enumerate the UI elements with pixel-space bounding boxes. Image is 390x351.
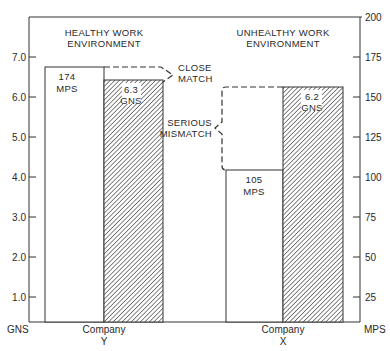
category-label-company-y-line2: Y bbox=[101, 336, 108, 347]
right-tick-label: 100 bbox=[365, 172, 382, 183]
right-tick-label: 125 bbox=[365, 132, 382, 143]
panel-title-unhealthy-line2: ENVIRONMENT bbox=[246, 38, 320, 49]
left-tick-label: 2.0 bbox=[12, 252, 26, 263]
annotation-text: CLOSE bbox=[178, 62, 212, 73]
right-tick-label: 175 bbox=[365, 52, 382, 63]
left-tick-label: 1.0 bbox=[12, 292, 26, 303]
bar-label-value: 6.3 bbox=[124, 84, 138, 95]
company-x-group: 105 MPS 6.2 GNS bbox=[226, 87, 343, 322]
right-tick-label: 75 bbox=[365, 212, 377, 223]
bar-label-unit: MPS bbox=[56, 83, 78, 94]
category-label-company-y: Company bbox=[83, 324, 126, 335]
mps-gns-chart: 1.0 2.0 3.0 4.0 5.0 6.0 7.0 GNS 25 50 75… bbox=[0, 0, 390, 351]
category-label-company-x: Company bbox=[262, 324, 305, 335]
category-label-company-x-line2: X bbox=[280, 336, 287, 347]
left-axis-label: GNS bbox=[7, 324, 29, 335]
panel-title-unhealthy: UNHEALTHY WORK bbox=[236, 27, 329, 38]
right-tick-label: 25 bbox=[365, 292, 377, 303]
left-tick-label: 7.0 bbox=[12, 52, 26, 63]
left-axis-gns: 1.0 2.0 3.0 4.0 5.0 6.0 7.0 GNS bbox=[7, 52, 36, 335]
right-tick-label: 150 bbox=[365, 92, 382, 103]
bar-company-x-gns bbox=[283, 87, 343, 322]
annotation-text: SERIOUS bbox=[167, 117, 212, 128]
bar-label-unit: GNS bbox=[120, 95, 142, 106]
right-tick-label: 200 bbox=[365, 12, 382, 23]
company-y-group: 174 MPS 6.3 GNS bbox=[45, 67, 163, 322]
left-tick-label: 3.0 bbox=[12, 212, 26, 223]
left-tick-label: 6.0 bbox=[12, 92, 26, 103]
panel-title-healthy: HEALTHY WORK bbox=[65, 27, 144, 38]
bar-label-unit: MPS bbox=[243, 186, 265, 197]
panel-title-healthy-line2: ENVIRONMENT bbox=[67, 38, 141, 49]
right-axis-label: MPS bbox=[364, 324, 386, 335]
annotation-text: MISMATCH bbox=[160, 128, 212, 139]
bar-label-value: 105 bbox=[246, 174, 263, 185]
right-tick-label: 50 bbox=[365, 252, 377, 263]
serious-mismatch-annotation: SERIOUS MISMATCH bbox=[160, 87, 283, 170]
bar-company-y-mps bbox=[45, 67, 104, 322]
annotation-text: MATCH bbox=[178, 73, 213, 84]
bar-label-value: 6.2 bbox=[305, 91, 319, 102]
right-axis-mps: 25 50 75 100 125 150 175 200 MPS bbox=[353, 12, 386, 335]
bar-label-value: 174 bbox=[59, 71, 76, 82]
bar-label-unit: GNS bbox=[301, 102, 323, 113]
bar-company-y-gns bbox=[104, 80, 163, 322]
left-tick-label: 4.0 bbox=[12, 172, 26, 183]
left-tick-label: 5.0 bbox=[12, 132, 26, 143]
